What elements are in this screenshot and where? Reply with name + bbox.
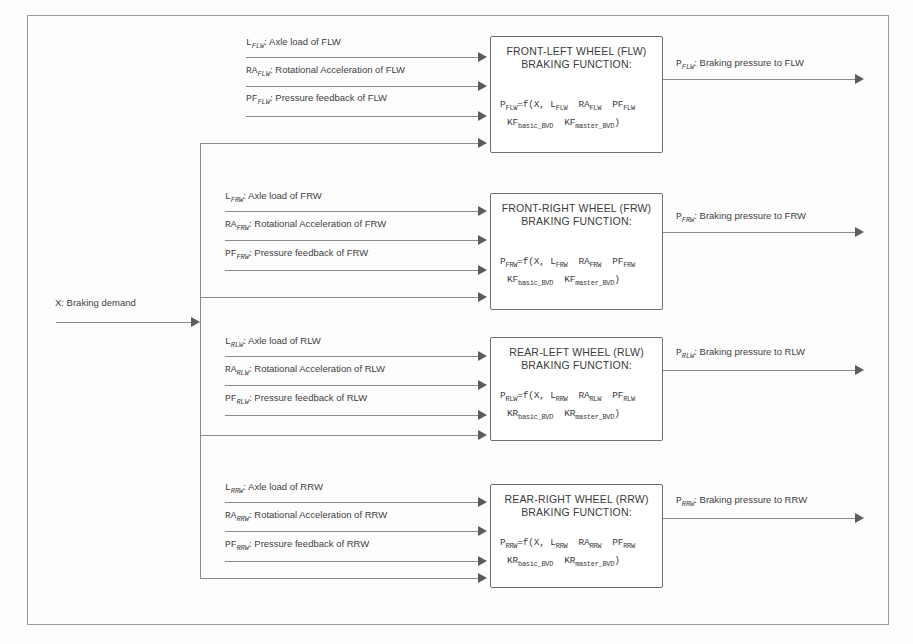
signal-label-ra-rlw: RARLW: Rotational Acceleration of RLW — [225, 363, 385, 377]
signal-label-l-rlw: LRLW: Axle load of RLW — [225, 335, 321, 349]
output-label-frw: PFRW: Braking pressure to FRW — [676, 210, 806, 224]
block-rrw[interactable]: REAR-RIGHT WHEEL (RRW) BRAKING FUNCTION:… — [490, 484, 663, 588]
block-flw-title-line1: FRONT-LEFT WHEEL (FLW) — [491, 45, 662, 58]
block-frw-title-line2: BRAKING FUNCTION: — [491, 215, 662, 228]
signal-line-pf-rlw — [225, 415, 481, 416]
signal-arrow-pf-rrw — [478, 556, 487, 566]
braking-demand-line — [56, 322, 194, 323]
block-flw[interactable]: FRONT-LEFT WHEEL (FLW) BRAKING FUNCTION:… — [490, 36, 663, 153]
signal-arrow-l-rrw — [478, 497, 487, 507]
signal-arrow-ra-flw — [478, 81, 487, 91]
output-line-rlw — [663, 370, 859, 371]
demand-branch-rrw — [200, 578, 481, 579]
block-rrw-formula-line2: KRbasic_BVD KRmaster_BVD) — [507, 555, 620, 568]
block-frw-formula-line1: PFRW=f(X, LFRW RAFRW PFFRW — [500, 256, 635, 269]
signal-label-ra-frw: RAFRW: Rotational Acceleration of FRW — [225, 218, 386, 232]
output-arrow-rlw — [855, 365, 864, 375]
diagram-canvas: X: Braking demand FRONT-LEFT WHEEL (FLW)… — [0, 0, 913, 644]
block-rlw-title-line2: BRAKING FUNCTION: — [491, 359, 662, 372]
signal-label-ra-flw: RAFLW: Rotational Acceleration of FLW — [246, 64, 405, 78]
output-line-frw — [663, 232, 859, 233]
braking-demand-arrowhead — [191, 317, 200, 327]
block-frw[interactable]: FRONT-RIGHT WHEEL (FRW) BRAKING FUNCTION… — [490, 193, 663, 310]
signal-label-pf-rlw: PFRLW: Pressure feedback of RLW — [225, 392, 367, 406]
signal-arrow-pf-frw — [478, 265, 487, 275]
demand-arrow-rlw — [478, 430, 487, 440]
signal-arrow-l-flw — [478, 52, 487, 62]
block-rlw[interactable]: REAR-LEFT WHEEL (RLW) BRAKING FUNCTION: … — [490, 337, 663, 441]
block-rrw-title-line1: REAR-RIGHT WHEEL (RRW) — [491, 493, 662, 506]
block-rrw-title-line2: BRAKING FUNCTION: — [491, 506, 662, 519]
demand-branch-flw — [200, 143, 481, 144]
signal-label-l-rrw: LRRW: Axle load of RRW — [225, 481, 323, 495]
signal-line-l-flw — [246, 57, 481, 58]
signal-label-ra-rrw: RARRW: Rotational Acceleration of RRW — [225, 509, 387, 523]
output-label-rrw: PRRW: Braking pressure to RRW — [676, 494, 807, 508]
output-arrow-flw — [855, 74, 864, 84]
signal-line-ra-rlw — [225, 385, 481, 386]
signal-arrow-pf-flw — [478, 111, 487, 121]
block-rlw-title-line1: REAR-LEFT WHEEL (RLW) — [491, 346, 662, 359]
block-frw-formula-line2: KFbasic_BVD KFmaster_BVD) — [507, 274, 620, 287]
output-line-rrw — [663, 518, 859, 519]
signal-line-l-rlw — [225, 356, 481, 357]
signal-line-ra-rrw — [225, 531, 481, 532]
signal-label-l-frw: LFRW: Axle load of FRW — [225, 190, 322, 204]
demand-branch-frw — [200, 297, 481, 298]
demand-bus-vertical — [200, 143, 201, 578]
demand-arrow-frw — [478, 292, 487, 302]
block-rlw-formula-line1: PRLW=f(X, LRRW RARLW PFRLW — [500, 390, 635, 403]
block-flw-formula-line2: KFbasic_BVD KFmaster_BVD) — [507, 117, 620, 130]
signal-arrow-ra-frw — [478, 235, 487, 245]
block-rrw-formula-line1: PRRW=f(X, LRRW RARRW PFRRW — [500, 537, 635, 550]
output-arrow-frw — [855, 227, 864, 237]
demand-arrow-flw — [478, 138, 487, 148]
braking-demand-label: X: Braking demand — [55, 297, 136, 308]
signal-line-ra-frw — [225, 240, 481, 241]
output-label-flw: PFLW: Braking pressure to FLW — [676, 57, 804, 71]
output-arrow-rrw — [855, 513, 864, 523]
block-flw-formula-line1: PFLW=f(X, LFLW RAFLW PFFLW — [500, 99, 635, 112]
signal-label-pf-frw: PFFRW: Pressure feedback of FRW — [225, 247, 368, 261]
signal-line-ra-flw — [246, 86, 481, 87]
signal-arrow-pf-rlw — [478, 410, 487, 420]
signal-line-pf-flw — [246, 116, 481, 117]
signal-line-l-rrw — [225, 502, 481, 503]
diagram-frame — [27, 15, 889, 625]
demand-arrow-rrw — [478, 573, 487, 583]
signal-line-l-frw — [225, 211, 481, 212]
signal-arrow-ra-rrw — [478, 526, 487, 536]
signal-arrow-l-frw — [478, 206, 487, 216]
block-rlw-formula-line2: KRbasic_BVD KRmaster_BVD) — [507, 408, 620, 421]
output-label-rlw: PRLW: Braking pressure to RLW — [676, 346, 805, 360]
signal-line-pf-frw — [225, 270, 481, 271]
demand-branch-rlw — [200, 435, 481, 436]
signal-arrow-l-rlw — [478, 351, 487, 361]
block-frw-title-line1: FRONT-RIGHT WHEEL (FRW) — [491, 202, 662, 215]
signal-label-l-flw: LFLW: Axle load of FLW — [246, 36, 341, 50]
signal-arrow-ra-rlw — [478, 380, 487, 390]
signal-line-pf-rrw — [225, 561, 481, 562]
block-flw-title-line2: BRAKING FUNCTION: — [491, 58, 662, 71]
signal-label-pf-flw: PFFLW: Pressure feedback of FLW — [246, 92, 387, 106]
signal-label-pf-rrw: PFRRW: Pressure feedback of RRW — [225, 538, 369, 552]
output-line-flw — [663, 79, 859, 80]
